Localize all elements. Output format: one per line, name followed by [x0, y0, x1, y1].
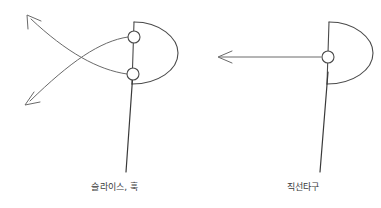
ball-marker-center-icon	[322, 51, 334, 63]
club-shaft-right	[320, 72, 328, 172]
slice-hook-illustration	[0, 0, 190, 178]
straight-shot-illustration	[190, 0, 381, 178]
club-shaft-left	[126, 72, 133, 172]
figure-slice-hook	[0, 0, 190, 178]
golf-ball-flight-diagram: 슬라이스, 훅 직선타구	[0, 0, 381, 208]
ball-marker-lower-icon	[127, 68, 139, 80]
figure-straight-shot	[190, 0, 381, 178]
ball-marker-upper-icon	[128, 31, 140, 43]
club-head-back-arc-right	[327, 22, 373, 84]
slice-trajectory-curve	[30, 37, 128, 101]
caption-slice-hook: 슬라이스, 훅	[60, 180, 170, 193]
hook-trajectory-curve	[31, 19, 127, 74]
caption-straight-shot: 직선타구	[248, 180, 358, 193]
